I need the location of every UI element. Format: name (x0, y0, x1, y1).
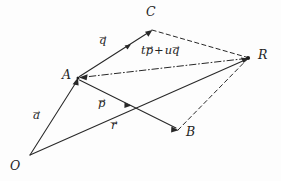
vector-arrow-accent-icon: → (99, 32, 107, 41)
vector-label-r: → r (111, 120, 117, 132)
expression-vector-p: →p (146, 45, 153, 57)
parametric-expression-label: t→p+u→q (141, 45, 179, 57)
vector-symbol-a: → a (33, 110, 40, 122)
vector-arrow-accent-icon: → (33, 107, 41, 116)
vector-arrow-accent-icon: → (172, 42, 180, 51)
construction-line-b-to-r (178, 60, 247, 130)
midarrow-vector-p (124, 102, 131, 108)
vector-arrow-accent-icon: → (146, 42, 154, 51)
point-markers (77, 56, 251, 80)
vector-label-a: → a (33, 110, 40, 122)
vector-label-p: → p (98, 98, 105, 110)
vector-diagram-figure: O A C B R → a → q → p → r t→p+u→q (0, 0, 281, 181)
arrowhead-r-to-a (79, 74, 88, 80)
vector-arrow-accent-icon: → (98, 95, 106, 104)
point-dot-a (77, 77, 80, 80)
vector-q-shaft (80, 32, 151, 77)
construction-line-r-to-a (85, 59, 246, 78)
midarrow-vector-q (125, 44, 131, 49)
point-label-o: O (10, 160, 20, 173)
point-dot-r (246, 56, 250, 60)
point-label-a: A (62, 69, 71, 82)
vector-symbol-r: → r (111, 120, 117, 132)
expression-vector-q: →q (172, 45, 179, 57)
point-label-c: C (146, 6, 156, 19)
expression-scalar-u: u (165, 43, 172, 57)
expression-operator: + (153, 43, 165, 57)
arrowhead-vector-q (145, 30, 152, 37)
point-label-b: B (186, 126, 195, 139)
vector-p (80, 80, 179, 133)
vector-label-q: → q (99, 35, 106, 47)
point-label-r: R (258, 49, 267, 62)
vector-arrow-accent-icon: → (110, 117, 118, 126)
vector-diagram-canvas (0, 0, 281, 181)
vector-symbol-q: → q (99, 35, 106, 47)
vector-symbol-p: → p (98, 98, 105, 110)
